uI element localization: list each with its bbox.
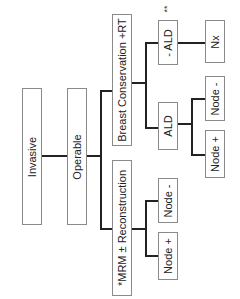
connector-to-bc <box>100 90 112 92</box>
connector-to-ald-node-pos <box>191 154 205 156</box>
connector-to-ald-node-neg <box>191 98 205 100</box>
node-label: Node + <box>163 238 174 274</box>
connector-bc-vertical <box>145 42 147 128</box>
node-no-ald: - ALD <box>158 20 178 65</box>
node-label: Invasive <box>27 136 38 176</box>
node-operable: Operable <box>67 88 87 225</box>
connector-to-mrm-node-pos <box>145 255 158 257</box>
node-label: Breast Conservation +RT <box>117 18 128 142</box>
node-nx: Nx <box>205 20 225 63</box>
node-label: ALD <box>163 115 174 136</box>
connector-to-mrm-node-neg <box>145 200 158 202</box>
connector-to-ald <box>145 127 158 129</box>
node-mrm-node-neg: Node - <box>158 178 178 223</box>
connector-bc-trunk <box>132 82 146 84</box>
node-label: - ALD <box>163 29 174 57</box>
connector-ald-trunk <box>178 123 192 125</box>
connector-no-ald-nx <box>178 42 205 44</box>
node-label: Operable <box>72 134 83 179</box>
node-label: Node + <box>210 136 221 172</box>
node-ald-node-neg: Node - <box>205 76 225 121</box>
node-ald: ALD <box>158 102 178 150</box>
no-ald-annotation: ** <box>162 5 172 12</box>
node-ald-node-pos: Node + <box>205 130 225 178</box>
connector-ald-vertical <box>191 98 193 155</box>
connector-mrm-trunk <box>132 228 146 230</box>
connector-to-mrm <box>100 228 112 230</box>
node-mrm-node-pos: Node + <box>158 232 178 280</box>
node-mrm: *MRM ± Reconstruction <box>112 160 132 296</box>
node-breast-conservation: Breast Conservation +RT <box>112 14 132 146</box>
connector-operable-trunk <box>87 155 101 157</box>
connector-to-no-ald <box>145 42 158 44</box>
connector-mrm-vertical <box>145 200 147 256</box>
node-label: Nx <box>210 35 221 48</box>
node-label: *MRM ± Reconstruction <box>117 170 128 286</box>
node-label: Node - <box>163 184 174 217</box>
node-invasive: Invasive <box>22 88 42 225</box>
node-label: Node - <box>210 82 221 115</box>
connector-invasive-operable <box>42 155 67 157</box>
connector-operable-vertical <box>100 90 102 229</box>
